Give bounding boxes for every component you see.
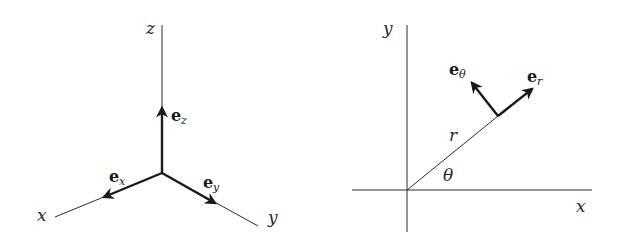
cartesian-diagram: z x y e z e x e y: [37, 18, 278, 227]
coordinate-diagrams: z x y e z e x e y y x r θ e θ e: [0, 0, 623, 239]
er-label: e r: [527, 67, 543, 88]
etheta-label: e θ: [449, 60, 466, 81]
polar-x-axis-label: x: [576, 196, 586, 216]
x-axis-label: x: [37, 205, 47, 225]
y-axis-label: y: [267, 207, 278, 227]
svg-text:e: e: [203, 173, 213, 192]
ey-label: e y: [203, 173, 220, 194]
ez-label: e z: [171, 106, 187, 127]
polar-diagram: y x r θ e θ e r: [352, 18, 592, 232]
ex-label: e x: [109, 167, 126, 188]
svg-text:z: z: [180, 114, 187, 127]
radius-label: r: [449, 125, 458, 145]
svg-text:e: e: [109, 167, 119, 186]
angle-theta-label: θ: [443, 165, 453, 185]
svg-text:x: x: [119, 175, 126, 188]
etheta-vector: [472, 83, 498, 116]
svg-text:y: y: [212, 181, 220, 194]
svg-text:r: r: [537, 75, 543, 88]
polar-y-axis-label: y: [382, 18, 393, 38]
svg-text:e: e: [171, 106, 181, 125]
er-vector: [498, 89, 532, 116]
svg-text:e: e: [527, 67, 537, 86]
svg-text:e: e: [449, 60, 459, 79]
z-axis-label: z: [145, 18, 156, 38]
svg-text:θ: θ: [459, 68, 466, 81]
